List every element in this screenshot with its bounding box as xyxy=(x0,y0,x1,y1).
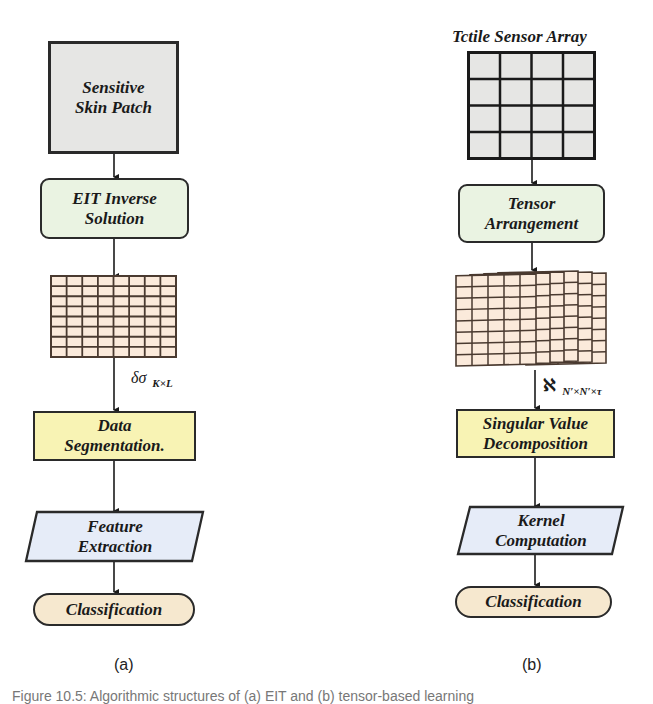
panel-label-b: (b) xyxy=(522,656,542,674)
node-label: Kernel Computation xyxy=(495,511,587,551)
node-label: Feature Extraction xyxy=(78,517,153,557)
panel-label-a: (a) xyxy=(114,656,134,674)
node-label: Sensitive Skin Patch xyxy=(75,78,152,118)
node-label: Singular Value Decomposition xyxy=(483,414,588,454)
node-label: Classification xyxy=(485,592,581,612)
node-label: EIT Inverse Solution xyxy=(72,189,157,229)
data-segmentation-node: Data Segmentation. xyxy=(33,411,196,461)
tactile-sensor-array-title: Tctile Sensor Array xyxy=(452,27,587,47)
kernel-computation-node: Kernel Computation xyxy=(458,507,624,555)
node-label: Tensor Arrangement xyxy=(485,194,579,234)
figure-caption: Figure 10.5: Algorithmic structures of (… xyxy=(12,688,474,704)
classification-node-a: Classification xyxy=(33,593,195,626)
svd-node: Singular Value Decomposition xyxy=(456,409,615,458)
tactile-sensor-grid xyxy=(467,51,596,160)
delta-sigma-label: δσ K×L xyxy=(131,369,173,387)
tensor-arrangement-node: Tensor Arrangement xyxy=(458,184,605,243)
node-label: Classification xyxy=(66,600,162,620)
eit-inverse-solution-node: EIT Inverse Solution xyxy=(40,178,189,239)
feature-extraction-node: Feature Extraction xyxy=(26,512,204,562)
tensor-stack xyxy=(452,268,614,374)
classification-node-b: Classification xyxy=(455,586,612,618)
aleph-label: ℵ N′×N′×τ xyxy=(543,375,602,396)
sensitive-skin-patch-node: Sensitive Skin Patch xyxy=(48,41,179,154)
conductivity-grid xyxy=(50,275,177,358)
node-label: Data Segmentation. xyxy=(64,416,165,456)
